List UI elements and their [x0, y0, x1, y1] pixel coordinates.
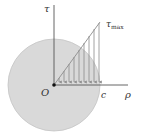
origin-point [52, 83, 56, 87]
rho-axis-label: ρ [124, 89, 131, 100]
radius-label: c [101, 90, 106, 100]
origin-label: O [41, 87, 49, 98]
diagram-root: τ τmax O c ρ [0, 0, 143, 137]
tau-axis-label: τ [44, 3, 50, 14]
tau-max-label: τmax [106, 19, 124, 30]
shear-stress-diagram: τ τmax O c ρ [0, 0, 143, 137]
